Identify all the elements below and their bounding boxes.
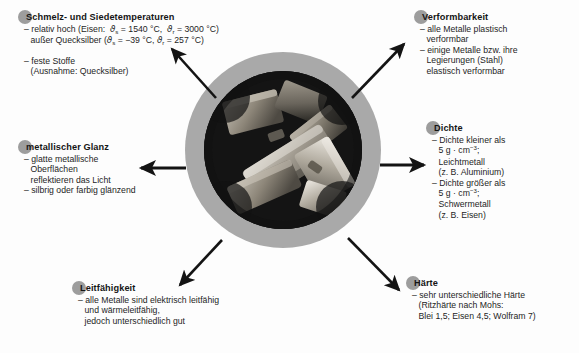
callout-heading-conductivity: Leitfähigkeit [78,283,135,294]
callout-heading-gloss: metallischer Glanz [24,142,109,153]
center-metal-photo [204,71,362,229]
callout-body-conductivity: – alle Metalle sind elektrisch leitfähig… [78,295,219,326]
callout-line: – Dichte größer als [432,178,505,188]
callout-line: (z. B. Aluminium) [432,167,505,177]
callout-line: außer Quecksilber (ϑs = −39 °C, ϑr = 257… [24,35,219,46]
callout-heading-density: Dichte [432,123,463,134]
callout-line: – alle Metalle sind elektrisch leitfähig [78,295,219,305]
callout-line: – Dichte kleiner als [432,135,505,145]
callout-line: – relativ hoch (Eisen: ϑs = 1540 °C, ϑr … [24,24,219,35]
callout-hardness: Härte – sehr unterschiedliche Härte (Rit… [412,272,536,321]
callout-line: – silbrig oder farbig glänzend [24,185,136,195]
arrow-to-hardness [348,238,399,290]
callout-body-deformability: – alle Metalle plastisch verformbar – ei… [420,24,518,76]
callout-line: 5 g · cm−3; [432,145,505,156]
callout-line: Leichtmetall [432,157,505,167]
callout-line: und wärmeleitfähig, [78,305,219,315]
callout-line: Legierungen (Stahl) [420,55,518,65]
callout-line: (z. B. Eisen) [432,210,505,220]
callout-line: – feste Stoffe [24,56,219,66]
callout-line: – sehr unterschiedliche Härte [412,290,536,300]
callout-metallic-gloss: metallischer Glanz – glatte metallische … [24,136,136,196]
callout-line: – glatte metallische [24,154,136,164]
callout-line: – einige Metalle bzw. ihre [420,45,518,55]
callout-line-spacer [24,47,219,56]
callout-heading-hardness: Härte [412,278,438,289]
callout-line: reflektieren das Licht [24,175,136,185]
callout-line: verformbar [420,34,518,44]
callout-line: – alle Metalle plastisch [420,24,518,34]
callout-deformability: Verformbarkeit – alle Metalle plastisch … [420,6,518,76]
callout-line: elastisch verformbar [420,66,518,76]
callout-density: Dichte – Dichte kleiner als 5 g · cm−3; … [432,117,505,220]
callout-line: (Ausnahme: Quecksilber) [24,66,219,76]
callout-line: Blei 1,5; Eisen 4,5; Wolfram 7) [412,311,536,321]
metal-ingots-illustration [204,71,362,229]
callout-line: Oberflächen [24,164,136,174]
callout-line: Schwermetall [432,199,505,209]
callout-line: jedoch unterschiedlich gut [78,316,219,326]
callout-heading-melting: Schmelz- und Siedetemperaturen [24,12,175,23]
callout-melting-temperatures: Schmelz- und Siedetemperaturen – relativ… [24,6,219,77]
callout-line: (Ritzhärte nach Mohs: [412,300,536,310]
callout-body-melting: – relativ hoch (Eisen: ϑs = 1540 °C, ϑr … [24,24,219,77]
callout-conductivity: Leitfähigkeit – alle Metalle sind elektr… [78,277,219,326]
callout-body-density: – Dichte kleiner als 5 g · cm−3; Leichtm… [432,135,505,220]
callout-body-gloss: – glatte metallische Oberflächen reflekt… [24,154,136,196]
callout-line: 5 g · cm−3; [432,188,505,199]
callout-body-hardness: – sehr unterschiedliche Härte (Ritzhärte… [412,290,536,321]
figure-root: Schmelz- und Siedetemperaturen – relativ… [0,0,579,353]
callout-heading-deformability: Verformbarkeit [420,12,488,23]
